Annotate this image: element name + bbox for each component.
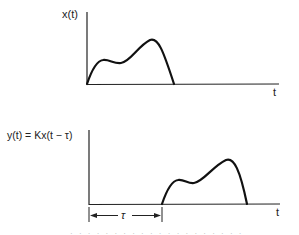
bottom-x-axis-label: t [276, 206, 279, 218]
top-y-axis-label: x(t) [62, 8, 78, 20]
signal-delay-diagram [0, 0, 299, 235]
top-x-axis-label: t [273, 86, 276, 98]
delay-tau-label: τ [121, 209, 125, 221]
caption-fragment: · · · · · · · · · · · · · · · · · · · · [70, 229, 244, 235]
bottom-y-axis-label: y(t) = Kx(t − τ) [7, 129, 72, 141]
bottom-x-axis [89, 204, 280, 205]
bottom-delayed-curve [162, 160, 247, 204]
top-x-axis [87, 84, 279, 85]
top-signal-curve [87, 40, 174, 84]
delay-dimension-arrow [89, 207, 162, 222]
